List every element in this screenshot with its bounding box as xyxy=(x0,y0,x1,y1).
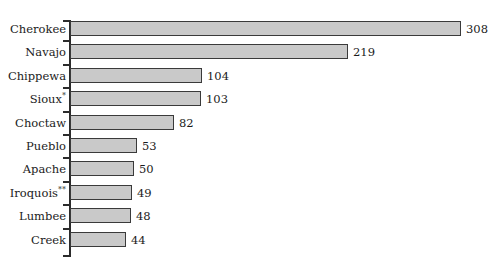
category-label-sioux: Sioux* xyxy=(0,91,66,108)
value-label-apache: 50 xyxy=(139,161,154,178)
category-label-cherokee: Cherokee xyxy=(0,21,66,38)
bar-cherokee xyxy=(70,21,461,36)
plot-area: Cherokee308Navajo219Chippewa104Sioux*103… xyxy=(0,0,504,268)
category-label-apache: Apache xyxy=(0,161,66,178)
axis-tick xyxy=(63,204,69,206)
bar-lumbee xyxy=(70,208,131,223)
value-label-pueblo: 53 xyxy=(142,138,157,155)
axis-cap-bottom xyxy=(63,255,70,257)
bar-row: Chippewa104 xyxy=(0,68,504,85)
bar-choctaw xyxy=(70,115,174,130)
category-label-pueblo: Pueblo xyxy=(0,138,66,155)
category-label-choctaw: Choctaw xyxy=(0,115,66,132)
value-label-choctaw: 82 xyxy=(179,115,194,132)
footnote-marker: * xyxy=(62,91,66,100)
bar-row: Lumbee48 xyxy=(0,208,504,225)
axis-tick xyxy=(63,111,69,113)
axis-tick xyxy=(63,134,69,136)
value-label-navajo: 219 xyxy=(353,44,375,61)
value-label-chippewa: 104 xyxy=(207,68,229,85)
value-label-sioux: 103 xyxy=(206,91,228,108)
bar-row: Pueblo53 xyxy=(0,138,504,155)
bar-row: Creek44 xyxy=(0,232,504,249)
axis-tick xyxy=(63,157,69,159)
bar-navajo xyxy=(70,44,348,59)
axis-tick xyxy=(63,87,69,89)
category-label-creek: Creek xyxy=(0,232,66,249)
category-label-lumbee: Lumbee xyxy=(0,208,66,225)
bar-row: Sioux*103 xyxy=(0,91,504,108)
value-label-cherokee: 308 xyxy=(466,21,488,38)
bar-row: Apache50 xyxy=(0,161,504,178)
bar-creek xyxy=(70,232,126,247)
axis-tick xyxy=(63,228,69,230)
category-label-navajo: Navajo xyxy=(0,44,66,61)
bar-iroquois xyxy=(70,185,132,200)
bar-chart: Cherokee308Navajo219Chippewa104Sioux*103… xyxy=(0,0,504,268)
axis-tick xyxy=(63,181,69,183)
value-label-iroquois: 49 xyxy=(137,185,152,202)
bar-apache xyxy=(70,161,134,176)
value-label-lumbee: 48 xyxy=(136,208,151,225)
axis-tick xyxy=(63,40,69,42)
bar-row: Cherokee308 xyxy=(0,21,504,38)
axis-tick xyxy=(63,64,69,66)
bar-row: Navajo219 xyxy=(0,44,504,61)
bar-row: Iroquois**49 xyxy=(0,185,504,202)
value-label-creek: 44 xyxy=(131,232,146,249)
category-label-chippewa: Chippewa xyxy=(0,68,66,85)
bar-chippewa xyxy=(70,68,202,83)
footnote-marker: ** xyxy=(58,185,66,194)
bar-pueblo xyxy=(70,138,137,153)
bar-sioux xyxy=(70,91,201,106)
bar-row: Choctaw82 xyxy=(0,115,504,132)
category-label-iroquois: Iroquois** xyxy=(0,185,66,202)
